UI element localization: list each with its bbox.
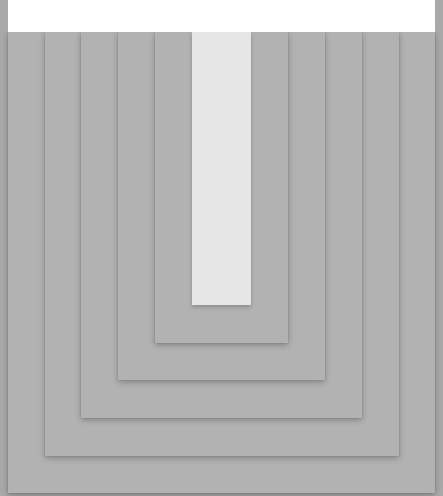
card-innermost — [192, 32, 251, 305]
nested-cards-stage — [0, 0, 443, 496]
top-white-panel — [8, 0, 435, 32]
